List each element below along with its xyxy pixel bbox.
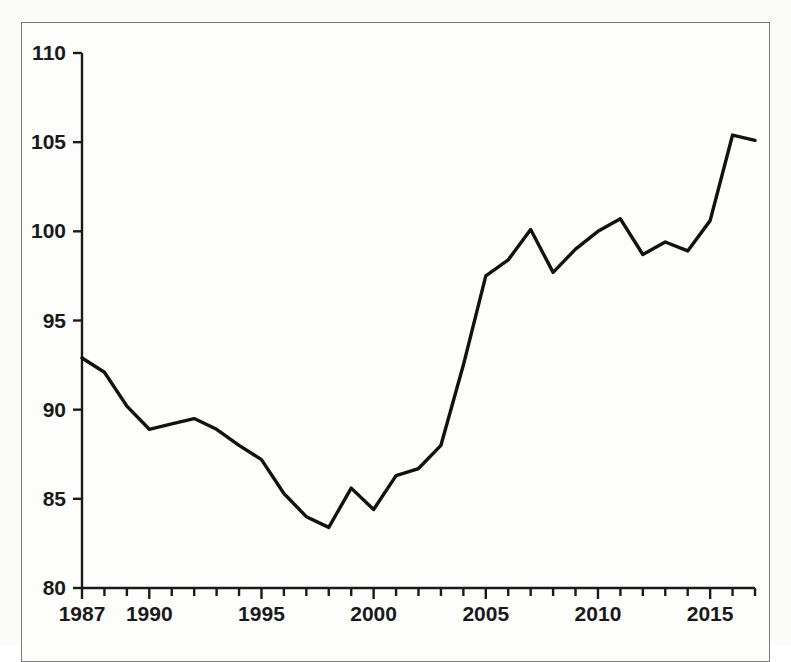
data-line-series-1 bbox=[82, 135, 755, 527]
y-axis-tick-label: 110 bbox=[32, 41, 66, 64]
y-axis-tick-label: 90 bbox=[43, 398, 66, 421]
data-series-group bbox=[82, 135, 755, 527]
y-axis: 80859095100105110 bbox=[31, 41, 82, 599]
x-axis-tick-label: 2010 bbox=[575, 602, 622, 625]
y-axis-tick-label: 105 bbox=[31, 130, 66, 153]
x-axis-tick-label: 1995 bbox=[238, 602, 285, 625]
y-axis-tick-label: 85 bbox=[43, 487, 67, 510]
x-axis-tick-label: 2000 bbox=[350, 602, 397, 625]
x-axis-tick-label: 1987 bbox=[59, 602, 106, 625]
y-axis-tick-label: 80 bbox=[43, 576, 66, 599]
y-axis-tick-label: 95 bbox=[43, 309, 67, 332]
x-axis-tick-label: 2005 bbox=[462, 602, 509, 625]
x-axis-tick-label: 2015 bbox=[687, 602, 734, 625]
x-axis-tick-label: 1990 bbox=[126, 602, 173, 625]
x-axis: 1987199019952000200520102015 bbox=[59, 588, 755, 625]
y-axis-tick-label: 100 bbox=[31, 219, 66, 242]
